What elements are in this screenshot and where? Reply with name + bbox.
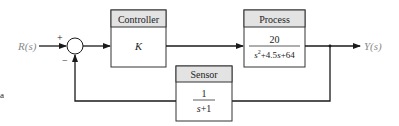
sensor-denominator: s+1 — [197, 103, 212, 114]
input-signal-label: R(s) — [17, 40, 37, 53]
process-title: Process — [259, 14, 290, 25]
controller-title: Controller — [118, 14, 160, 25]
minus-sign: − — [62, 55, 68, 66]
controller-gain: K — [134, 41, 143, 52]
sensor-title: Sensor — [190, 69, 218, 80]
process-block: Process 20 s2+4.5s+64 — [244, 10, 305, 67]
output-signal-label: Y(s) — [364, 40, 382, 53]
summing-junction — [67, 38, 83, 54]
stray-mark: a — [0, 90, 4, 100]
controller-block: Controller K — [111, 10, 166, 67]
process-denominator: s2+4.5s+64 — [254, 49, 295, 60]
block-diagram: R(s) + − Controller K Process 20 s2+4.5s… — [0, 0, 399, 126]
sensor-numerator: 1 — [202, 88, 207, 99]
process-numerator: 20 — [270, 34, 280, 45]
sensor-block: Sensor 1 s+1 — [176, 66, 232, 121]
plus-sign: + — [57, 32, 63, 43]
